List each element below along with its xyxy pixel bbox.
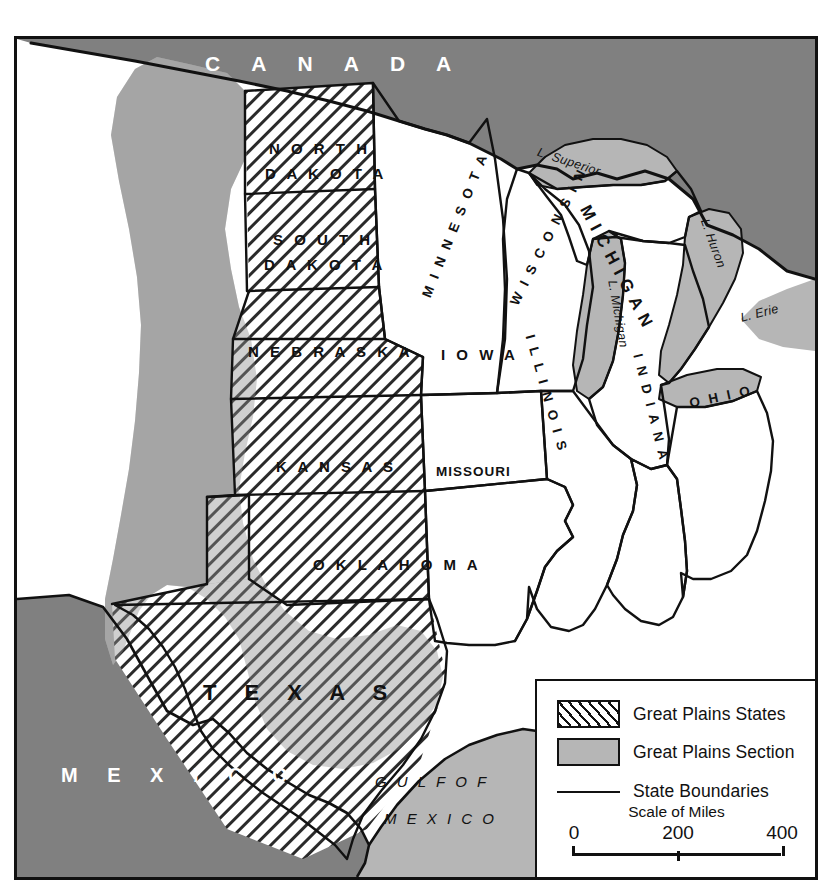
scale-of-miles: Scale of Miles 0 200 400 — [537, 803, 816, 858]
legend-label-great-plains-section: Great Plains Section — [633, 742, 795, 763]
scale-bar — [537, 846, 816, 858]
line-swatch-icon — [557, 791, 620, 793]
map-figure: C A N A D A M E X I C O G U L F O F M E … — [0, 0, 832, 896]
scale-title: Scale of Miles — [537, 803, 816, 821]
scale-tick-200: 200 — [662, 822, 694, 844]
gray-swatch-icon — [557, 738, 620, 766]
legend-label-great-plains-states: Great Plains States — [633, 704, 786, 725]
scale-bar-tick-mid — [677, 851, 680, 861]
legend-item-great-plains-section: Great Plains Section — [557, 738, 795, 766]
legend-item-state-boundaries: State Boundaries — [557, 781, 769, 802]
legend-item-great-plains-states: Great Plains States — [557, 700, 786, 728]
scale-bar-tick-end — [782, 846, 785, 856]
scale-tick-labels: 0 200 400 — [537, 822, 816, 844]
scale-tick-400: 400 — [766, 822, 798, 844]
scale-bar-tick-start — [572, 846, 575, 856]
hatch-swatch-icon — [557, 700, 620, 728]
map-legend: Great Plains States Great Plains Section… — [535, 679, 818, 880]
legend-label-state-boundaries: State Boundaries — [633, 781, 769, 802]
map-frame: C A N A D A M E X I C O G U L F O F M E … — [14, 36, 818, 880]
scale-tick-0: 0 — [569, 822, 580, 844]
